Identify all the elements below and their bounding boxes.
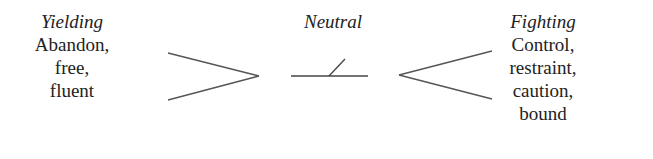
fighting-symbol-icon — [399, 51, 492, 99]
effort-flow-diagram: Yielding Abandon, free, fluent Neutral F… — [0, 0, 653, 159]
yielding-symbol-icon — [168, 53, 259, 100]
symbols-layer — [0, 0, 653, 159]
neutral-symbol-icon — [291, 59, 368, 76]
